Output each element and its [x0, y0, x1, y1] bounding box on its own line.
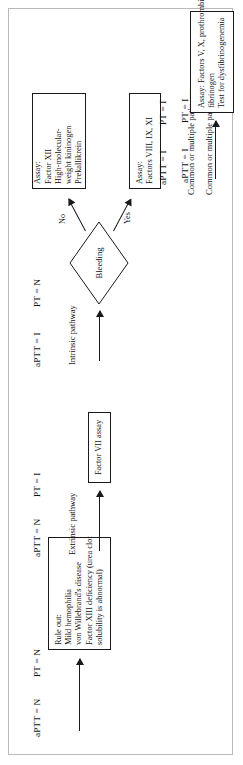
branch-extrinsic-box: Factor VII assay [88, 412, 111, 483]
branch-intrinsic-box-no-line-3: weight kininogen [64, 98, 74, 184]
branch-intrinsic-box-yes-line-0: Assay: [135, 98, 145, 184]
branch-common-arrow [215, 121, 216, 179]
branch-intrinsic-box-no-line-0: Assay: [33, 98, 43, 184]
branch-normal-heading-pt: PT = N [32, 649, 42, 677]
branch-normal-box-line-3: Factor XIII deficiency (urea clot [85, 542, 95, 645]
branch-extrinsic-heading-pt: PT = I [32, 472, 42, 497]
branch-common-heading-aptt: aPTT = I [158, 150, 168, 185]
branch-extrinsic-heading-aptt: aPTT = N [32, 519, 42, 557]
branch-extrinsic-pathway-label: Extrinsic pathway [67, 493, 77, 555]
branch-intrinsic-box-yes-line-1: Factors VIII, IX, XI [145, 98, 155, 184]
branch-intrinsic-pathway-label: Intrinsic pathway [67, 305, 77, 365]
branch-intrinsic-decision-label: Bleeding [69, 221, 129, 305]
branch-normal-box-line-0: Rule out: [54, 542, 64, 645]
branch-intrinsic-box-no-line-4: Prekallikrein [74, 98, 84, 184]
branch-common-box-line-0: Assay: Factors V, X, prothrombin, [197, 16, 207, 108]
branch-extrinsic-box-line-0: Factor VII assay [94, 417, 104, 478]
branch-normal-box-line-4: solubility is abnormal) [95, 542, 105, 645]
branch-normal-arrow [79, 659, 80, 731]
branch-intrinsic-box-no-line-2: High-molecular- [54, 98, 64, 184]
branch-normal-box: Rule out: Mild hemophilia von Willebrand… [48, 537, 111, 650]
flowchart-canvas: aPTT = N PT = N Rule out: Mild hemophili… [8, 8, 233, 755]
branch-common-box-line-1: fibrinogen [207, 16, 217, 108]
branch-intrinsic-yes-label: Yes [123, 212, 132, 224]
branch-intrinsic-decision-diamond: Bleeding [69, 221, 129, 305]
branch-common-heading-pt: PT = I [158, 100, 168, 125]
branch-intrinsic-box-yes: Assay: Factors VIII, IX, XI [129, 93, 161, 189]
branch-intrinsic-box-no-line-1: Factor XII [44, 98, 54, 184]
branch-intrinsic-arrow [99, 311, 100, 361]
branch-intrinsic-box-no: Assay: Factor XII High-molecular- weight… [32, 93, 86, 189]
branch-normal-box-line-1: Mild hemophilia [64, 542, 74, 645]
branch-extrinsic-arrow [99, 491, 100, 551]
branch-intrinsic-heading-aptt: aPTT = I [32, 332, 42, 367]
branch-common-box: Assay: Factors V, X, prothrombin, fibrin… [190, 11, 234, 113]
branch-intrinsic-heading-pt: PT = N [32, 279, 42, 307]
branch-intrinsic-no-label: No [58, 214, 67, 224]
branch-normal-heading-aptt: aPTT = N [32, 699, 42, 737]
rotated-figure-stage: aPTT = N PT = N Rule out: Mild hemophili… [8, 8, 233, 755]
branch-normal-box-line-2: von Willebrand's disease [74, 542, 84, 645]
branch-common-box-line-2: Test for dysfibrinogenemia [217, 16, 227, 108]
